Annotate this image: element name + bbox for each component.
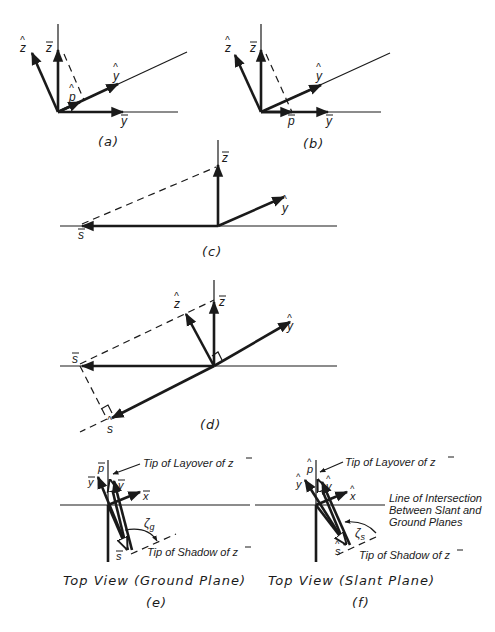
z-bar-label: z — [249, 41, 256, 55]
layover-note: Tip of Layover of z — [345, 456, 436, 468]
panel-e-caption: (e) — [146, 595, 167, 610]
y-bar-label: y — [120, 114, 128, 128]
intersection-note-line-3: Ground Planes — [389, 516, 463, 528]
zeta-g-label: ζg — [144, 516, 155, 532]
panel-f-caption: (f) — [352, 595, 370, 610]
shadow-note: Tip of Shadow of z — [147, 546, 239, 558]
shadow-note: Tip of Shadow of z — [359, 549, 451, 561]
layover-note: Tip of Layover of z — [143, 457, 234, 469]
z-bar-label: z — [45, 41, 52, 55]
s-hat-vector — [112, 366, 214, 418]
y-bar-label: y — [325, 114, 333, 128]
extension-dashed-line — [80, 419, 107, 432]
y-hat-vector — [214, 322, 290, 366]
shadow-dashed-line — [80, 300, 214, 364]
panel-d-caption: (d) — [200, 417, 221, 432]
panel-c-caption: (c) — [202, 244, 222, 259]
hat-accent: ^ — [20, 35, 25, 46]
s-bar-label: s — [116, 550, 122, 562]
z-bar-label: z — [218, 295, 225, 309]
x-bar-label: x — [142, 490, 149, 502]
p-bar-label: p — [97, 462, 104, 474]
panel-a-caption: (a) — [98, 134, 119, 149]
panel-a: z ^ z y ^ p ^ y (a) — [19, 24, 187, 149]
z-bar-label: z — [221, 151, 228, 165]
panel-c: z y ^ s (c) — [60, 140, 337, 259]
perpendicular-dashed-line — [80, 366, 107, 419]
panel-e-title: Top View (Ground Plane) — [63, 573, 246, 588]
y-hat-vector — [218, 197, 284, 226]
v-bar-label: v — [118, 479, 125, 491]
panel-b: z ^ z y ^ p y (b) — [224, 24, 390, 151]
hat-accent: ^ — [282, 194, 287, 205]
s-bar-label: s — [78, 228, 84, 242]
p-bar-label: p — [287, 114, 295, 128]
hat-accent: ^ — [225, 35, 230, 46]
hat-accent: ^ — [113, 62, 118, 73]
z-hat-vector — [186, 314, 214, 366]
s-bar-label: s — [72, 352, 78, 366]
panel-f-title: Top View (Slant Plane) — [268, 573, 435, 588]
intersection-note-line-1: Line of Intersection — [389, 492, 482, 504]
hat-accent: ^ — [174, 291, 179, 302]
panel-d: z ^ z y ^ s s ^ (d) — [60, 280, 337, 436]
hat-accent: ^ — [287, 313, 292, 324]
shadow-dashed-line — [82, 167, 216, 224]
layover-leader — [320, 462, 343, 472]
z-hat-vector — [32, 53, 58, 112]
hat-accent: ^ — [107, 415, 112, 426]
panel-f: p ^ y ^ v ^ x ^ s ^ ζs Tip of Layover of… — [255, 456, 482, 610]
hat-accent: ^ — [316, 62, 321, 73]
hat-accent: ^ — [69, 83, 74, 94]
y-bar-label: y — [87, 476, 95, 488]
y-hat-vector — [261, 85, 321, 112]
intersection-note-line-2: Between Slant and — [389, 504, 482, 516]
panel-b-caption: (b) — [303, 136, 324, 151]
layover-leader — [113, 464, 140, 474]
z-hat-vector — [235, 55, 261, 112]
right-angle-marker — [101, 405, 112, 413]
zeta-s-label: ζs — [355, 526, 366, 542]
figure-canvas: z ^ z y ^ p ^ y (a) z ^ z y ^ p y (b) — [0, 0, 495, 632]
panel-e: p y v x s ζg Tip of Layover of z Tip of … — [60, 457, 252, 610]
